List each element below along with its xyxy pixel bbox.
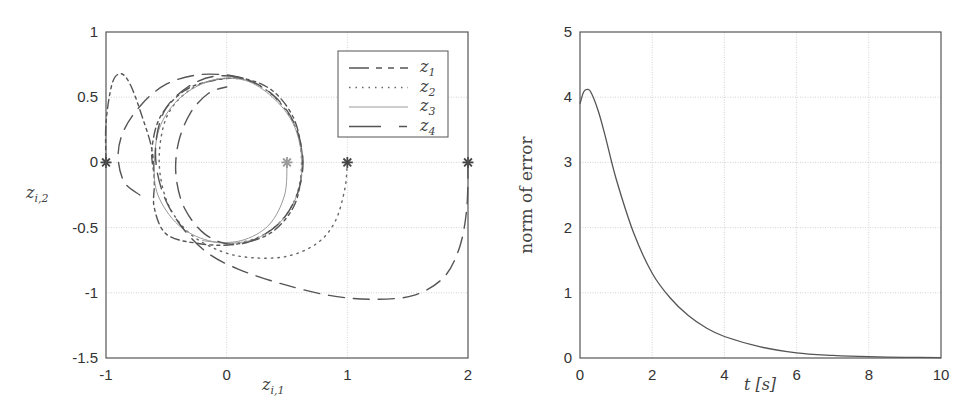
legend: z1z2z3z4	[338, 51, 448, 138]
star-marker	[282, 157, 293, 168]
y-tick-label: -1	[85, 284, 98, 301]
figure: -1012 10.50-0.5-1-1.5 zi,1 zi,2 z1z2z3z4…	[0, 0, 973, 415]
x-tick-label: 8	[865, 366, 873, 383]
y-tick-label: 5	[564, 23, 572, 40]
x-tick-label: 6	[792, 366, 800, 383]
x-tick-label: -1	[99, 366, 112, 383]
x-tick-label: 2	[648, 366, 656, 383]
right-x-label: t [s]	[744, 375, 777, 394]
error-norm-plot: 0246810 543210 t [s] norm of error	[516, 23, 949, 394]
right-y-ticks: 543210	[564, 23, 572, 366]
trajectory-plot: -1012 10.50-0.5-1-1.5 zi,1 zi,2 z1z2z3z4	[25, 23, 474, 397]
x-tick-label: 10	[933, 366, 950, 383]
y-tick-label: 0	[564, 349, 572, 366]
y-tick-label: -1.5	[72, 349, 98, 366]
left-y-ticks: 10.50-0.5-1-1.5	[72, 23, 98, 366]
right-grid	[580, 32, 941, 358]
y-tick-label: -0.5	[72, 219, 98, 236]
y-tick-label: 2	[564, 219, 572, 236]
y-tick-label: 4	[564, 88, 572, 105]
right-y-label: norm of error	[516, 135, 536, 253]
x-tick-label: 0	[576, 366, 584, 383]
right-plot-frame	[580, 32, 941, 358]
error-norm-curve	[580, 89, 941, 357]
y-tick-label: 1	[564, 284, 572, 301]
left-x-ticks: -1012	[99, 366, 472, 383]
trajectory-z4-tail	[118, 74, 251, 195]
y-tick-label: 3	[564, 153, 572, 170]
right-series	[580, 89, 941, 357]
x-tick-label: 2	[464, 366, 472, 383]
left-x-label: zi,1	[261, 375, 284, 397]
star-marker	[342, 157, 353, 168]
x-tick-label: 4	[720, 366, 728, 383]
y-tick-label: 1	[90, 23, 98, 40]
left-y-label: zi,2	[25, 183, 48, 205]
y-tick-label: 0.5	[77, 88, 98, 105]
x-tick-label: 1	[343, 366, 351, 383]
x-tick-label: 0	[222, 366, 230, 383]
y-tick-label: 0	[90, 153, 98, 170]
